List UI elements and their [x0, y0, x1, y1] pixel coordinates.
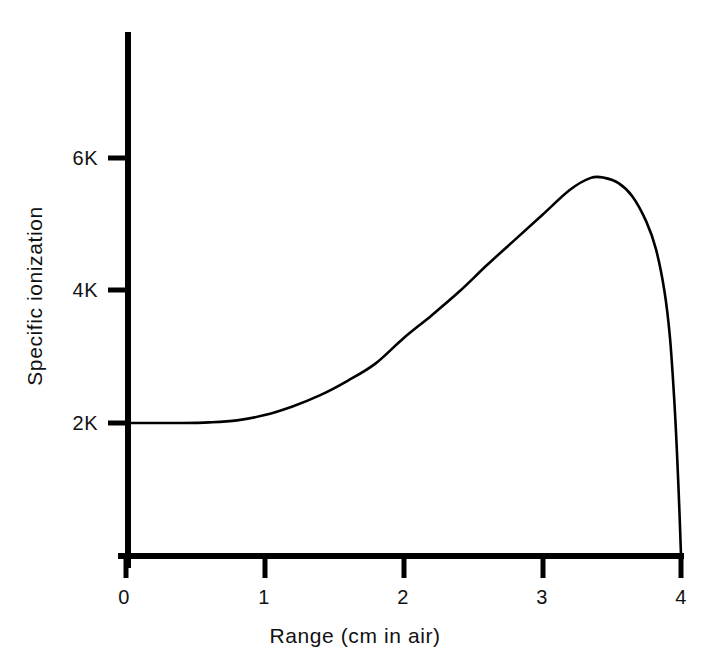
bragg-curve-figure: 2K 4K 6K 0 1 2 3 4 Range (cm in air) Spe… — [0, 0, 710, 672]
y-tick-label-6k: 6K — [50, 147, 98, 170]
x-tick-label-3: 3 — [536, 586, 548, 609]
y-tick-label-2k: 2K — [50, 412, 98, 435]
x-tick-label-2: 2 — [397, 586, 409, 609]
y-axis-title: Specific ionization — [18, 96, 52, 496]
chart-plot-area — [0, 0, 710, 672]
y-tick-label-4k: 4K — [50, 279, 98, 302]
x-tick-label-1: 1 — [258, 586, 270, 609]
x-axis-title: Range (cm in air) — [0, 624, 710, 648]
x-axis-ticks — [126, 556, 681, 578]
x-tick-label-0: 0 — [118, 586, 130, 609]
x-tick-label-4: 4 — [675, 586, 687, 609]
bragg-curve-line — [126, 177, 681, 556]
